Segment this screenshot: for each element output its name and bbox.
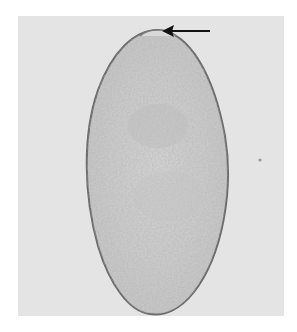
micrograph-canvas — [18, 16, 284, 316]
egg-contents — [78, 26, 238, 316]
debris-speck — [258, 158, 261, 161]
micrograph — [18, 16, 284, 316]
